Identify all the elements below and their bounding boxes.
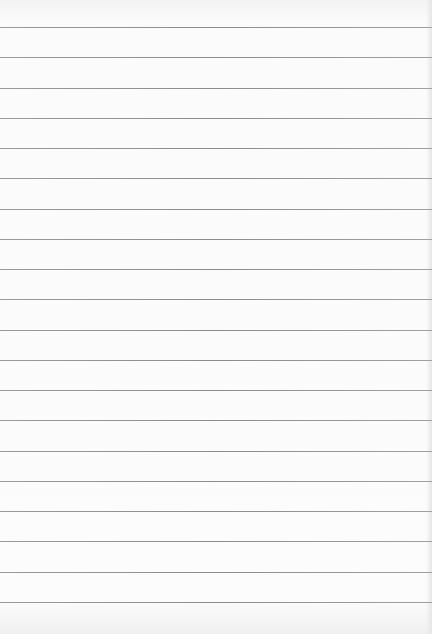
ruled-line: [0, 511, 432, 512]
ruled-line: [0, 360, 432, 361]
ruled-line: [0, 118, 432, 119]
ruled-line: [0, 420, 432, 421]
ruled-line: [0, 27, 432, 28]
ruled-line: [0, 541, 432, 542]
ruled-line: [0, 209, 432, 210]
lined-paper: [0, 0, 432, 634]
ruled-line: [0, 390, 432, 391]
ruled-line: [0, 269, 432, 270]
ruled-line: [0, 299, 432, 300]
ruled-line: [0, 239, 432, 240]
paper-edge-shadow: [426, 0, 432, 634]
ruled-line: [0, 57, 432, 58]
ruled-line: [0, 451, 432, 452]
ruled-line: [0, 88, 432, 89]
ruled-line: [0, 602, 432, 603]
ruled-line: [0, 481, 432, 482]
ruled-line: [0, 330, 432, 331]
ruled-line: [0, 148, 432, 149]
ruled-line: [0, 572, 432, 573]
ruled-line: [0, 178, 432, 179]
